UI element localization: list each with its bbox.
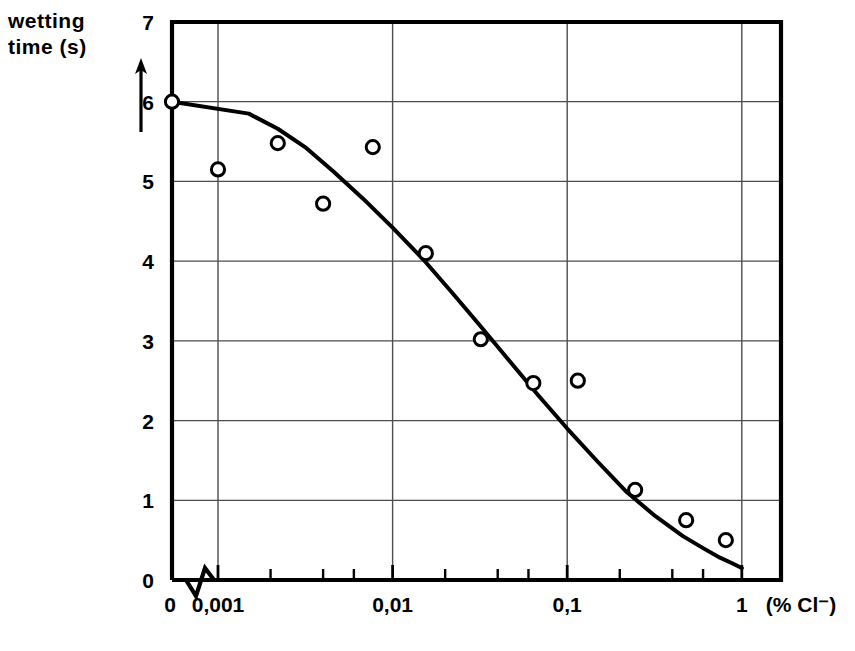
svg-text:0,1: 0,1 [553,593,583,616]
x-axis-tick-labels: 00,0010,010,11 [164,593,748,616]
svg-text:0: 0 [142,569,154,592]
svg-text:(% Cl⁻): (% Cl⁻) [766,593,837,616]
fitted-curve [172,102,742,568]
svg-text:6: 6 [142,91,154,114]
plot-area: 01234567 00,0010,010,11 (% Cl⁻) [0,0,855,651]
svg-text:3: 3 [142,330,154,353]
plot-frame [172,22,781,580]
wetting-time-chart: wettingtime (s) 01234567 00,0010,010,11 … [0,0,855,651]
svg-text:0,01: 0,01 [372,593,413,616]
svg-text:7: 7 [142,11,154,34]
x-axis-unit-label: (% Cl⁻) [766,593,837,616]
gridlines [172,22,781,580]
svg-text:4: 4 [142,250,154,273]
data-point-markers [165,95,732,547]
svg-text:2: 2 [142,410,154,433]
svg-text:0,001: 0,001 [192,593,245,616]
x-axis-ticks [218,565,742,580]
svg-text:0: 0 [164,593,176,616]
svg-text:1: 1 [736,593,748,616]
y-axis-tick-labels: 01234567 [142,11,154,592]
svg-text:5: 5 [142,170,154,193]
svg-text:1: 1 [142,489,154,512]
